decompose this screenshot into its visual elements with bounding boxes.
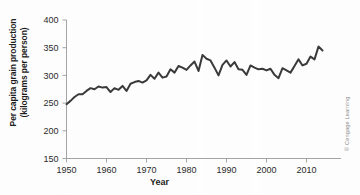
- y-tick-label: 200: [43, 126, 58, 136]
- y-tick-label: 400: [43, 15, 58, 25]
- x-tick-label: 1990: [216, 165, 236, 175]
- x-tick-label: 2000: [256, 165, 276, 175]
- y-tick-label: 300: [43, 71, 58, 81]
- y-tick-label: 250: [43, 98, 58, 108]
- y-tick-label: 150: [43, 154, 58, 164]
- x-axis-title: Year: [150, 177, 169, 187]
- x-tick-group: 1950196019701980199020002010: [56, 159, 316, 175]
- line-chart: 150200250300350400 195019601970198019902…: [0, 0, 360, 195]
- x-tick-label: 2010: [296, 165, 316, 175]
- x-tick-label: 1980: [176, 165, 196, 175]
- copyright-credit: © Cengage Learning: [344, 79, 350, 151]
- y-tick-label: 350: [43, 43, 58, 53]
- x-tick-label: 1950: [56, 165, 76, 175]
- y-tick-group: 150200250300350400: [43, 15, 66, 164]
- figure-container: Per capita grain production (kilograms p…: [0, 0, 360, 195]
- data-series-line: [67, 47, 323, 105]
- x-tick-label: 1960: [96, 165, 116, 175]
- x-tick-label: 1970: [136, 165, 156, 175]
